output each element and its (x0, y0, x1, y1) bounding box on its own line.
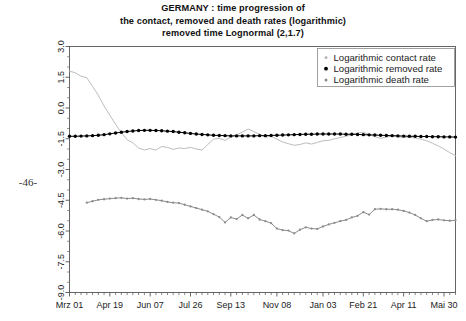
y-tick-label: -4.5 (56, 192, 66, 208)
plot-area: 3.01.50.0-1.5-3.0-4.5-6.0-7.5-9.0 Mrz 01… (0, 0, 466, 321)
x-tick-label: Jan 03 (309, 300, 336, 310)
y-tick-label: 0.0 (56, 102, 66, 115)
legend-label: Logarithmic death rate (334, 74, 429, 85)
series-3 (86, 197, 457, 235)
x-tick-label: Mai 30 (430, 300, 457, 310)
legend-item[interactable]: Logarithmic removed rate (324, 63, 442, 74)
y-tick-label: -1.5 (56, 131, 66, 147)
y-tick-label: -3.0 (56, 162, 66, 178)
legend-marker-icon (324, 67, 328, 71)
y-axis-ticks: 3.01.50.0-1.5-3.0-4.5-6.0-7.5-9.0 (56, 40, 70, 300)
x-tick-label: Jul 26 (178, 300, 202, 310)
page-number: -46- (6, 176, 50, 188)
chart-legend: Logarithmic contact rateLogarithmic remo… (318, 49, 455, 87)
y-tick-label: -6.0 (56, 223, 66, 239)
x-tick-label: Sep 13 (217, 300, 246, 310)
legend-marker-icon (325, 56, 328, 59)
chart-title-line-1: GERMANY : time progression of (0, 2, 466, 15)
y-tick-label: -9.0 (56, 285, 66, 301)
y-tick-label: -7.5 (56, 254, 66, 270)
chart-title: GERMANY : time progression of the contac… (0, 2, 466, 40)
series-2 (68, 129, 457, 139)
x-tick-label: Nov 08 (263, 300, 292, 310)
data-series-layer (68, 71, 457, 235)
legend-item[interactable]: Logarithmic contact rate (325, 52, 436, 63)
chart-title-line-3: removed time Lognormal (2,1.7) (0, 27, 466, 40)
y-tick-label: 3.0 (56, 40, 66, 53)
x-tick-label: Apr 19 (97, 300, 124, 310)
x-tick-label: Mrz 01 (56, 300, 84, 310)
chart-figure: GERMANY : time progression of the contac… (0, 0, 466, 321)
x-tick-label: Apr 11 (391, 300, 417, 310)
y-tick-label: 1.5 (56, 71, 66, 84)
x-axis-ticks: Mrz 01Apr 19Jun 07Jul 26Sep 13Nov 08Jan … (56, 293, 458, 310)
legend-label: Logarithmic contact rate (334, 52, 436, 63)
legend-marker-icon (325, 78, 328, 81)
x-tick-label: Jun 07 (137, 300, 164, 310)
legend-item[interactable]: Logarithmic death rate (325, 74, 429, 85)
x-tick-label: Feb 21 (349, 300, 377, 310)
legend-label: Logarithmic removed rate (334, 63, 443, 74)
chart-title-line-2: the contact, removed and death rates (lo… (0, 15, 466, 28)
